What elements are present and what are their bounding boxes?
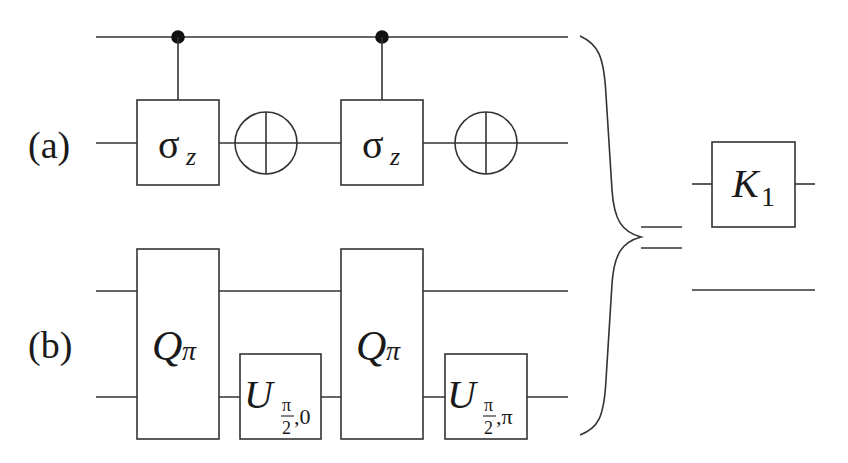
equals-sign [641,227,682,248]
circuit-a: σ z σ z [96,31,568,185]
sigma-subscript-1: z [185,142,196,171]
k-symbol: K [731,161,761,206]
u-sub-rest-1: ,0 [294,404,311,429]
right-brace [580,36,641,435]
k-subscript: 1 [761,181,775,212]
u-frac-num-1: π [282,395,291,415]
q-subscript-1: π [182,335,197,366]
q-symbol-1: Q [152,323,182,369]
sigma-subscript-2: z [389,142,400,171]
sigma-symbol-1: σ [158,122,180,167]
sigma-symbol-2: σ [362,122,384,167]
u-frac-den-2: 2 [484,418,493,438]
circuit-b: Q π U π 2 ,0 Q π U π 2 ,π [96,249,568,439]
q-subscript-2: π [386,335,401,366]
label-b: (b) [28,324,72,367]
u-symbol-1: U [244,372,276,417]
u-frac-num-2: π [484,395,493,415]
u-sub-rest-2: ,π [496,404,513,429]
label-a: (a) [28,124,70,167]
result-circuit: K 1 [692,142,815,290]
q-symbol-2: Q [356,323,386,369]
circuit-diagram: (a) (b) σ z σ z Q π U π [0,0,848,463]
u-symbol-2: U [447,372,479,417]
u-frac-den-1: 2 [282,418,291,438]
